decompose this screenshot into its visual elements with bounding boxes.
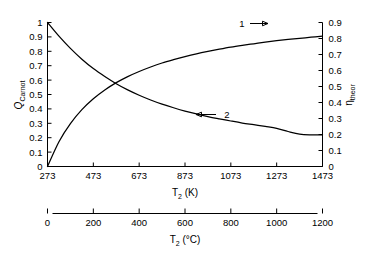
x-celsius-tick-label: 600 xyxy=(177,217,193,228)
y-left-tick-label: 0.1 xyxy=(29,147,42,158)
x-kelvin-tick-label: 273 xyxy=(40,170,56,181)
y-left-tick-label: 0.8 xyxy=(29,46,42,57)
y-right-tick-label: 0.9 xyxy=(329,17,342,28)
chart-background xyxy=(0,0,367,254)
x-celsius-tick-label: 400 xyxy=(131,217,147,228)
x-kelvin-tick-label: 1073 xyxy=(220,170,241,181)
x-kelvin-tick-label: 873 xyxy=(177,170,193,181)
x-celsius-tick-label: 200 xyxy=(85,217,101,228)
x-celsius-axis-title: T2 (°C) xyxy=(170,234,201,247)
x-kelvin-tick-label: 1473 xyxy=(312,170,333,181)
x-kelvin-tick-label: 473 xyxy=(85,170,101,181)
y-left-axis-subscript: Carnot xyxy=(19,81,26,102)
y-right-tick-label: 0.1 xyxy=(329,145,342,156)
x-celsius-tick-label: 1000 xyxy=(266,217,287,228)
y-left-tick-label: 0.6 xyxy=(29,75,42,86)
y-right-axis-subscript: theor xyxy=(349,84,356,101)
y-left-tick-labels: 00.10.20.30.40.50.60.70.80.91 xyxy=(29,17,42,172)
y-right-tick-label: 0.8 xyxy=(329,33,342,44)
y-right-tick-label: 0.7 xyxy=(329,49,342,60)
y-left-tick-label: 0.3 xyxy=(29,118,42,129)
y-right-tick-label: 0.6 xyxy=(329,65,342,76)
series-1-label: 1 xyxy=(239,18,244,29)
y-left-tick-label: 0.2 xyxy=(29,132,42,143)
y-right-tick-label: 0.2 xyxy=(329,129,342,140)
series-2-label: 2 xyxy=(224,109,229,120)
y-left-tick-label: 0.4 xyxy=(29,103,42,114)
y-left-tick-label: 0.9 xyxy=(29,31,42,42)
y-left-tick-label: 0.5 xyxy=(29,89,42,100)
y-left-tick-label: 0.7 xyxy=(29,60,42,71)
carnot-efficiency-chart: 00.10.20.30.40.50.60.70.80.91 00.10.20.3… xyxy=(0,0,367,254)
y-left-tick-label: 1 xyxy=(37,17,42,28)
y-right-tick-label: 0.3 xyxy=(329,113,342,124)
x-celsius-tick-label: 800 xyxy=(223,217,239,228)
x-celsius-tick-label: 1200 xyxy=(312,217,333,228)
chart-figure: 00.10.20.30.40.50.60.70.80.91 00.10.20.3… xyxy=(0,0,367,254)
x-kelvin-tick-label: 1273 xyxy=(266,170,287,181)
x-kelvin-tick-label: 673 xyxy=(131,170,147,181)
y-right-tick-label: 0.5 xyxy=(329,81,342,92)
y-right-tick-label: 0.4 xyxy=(329,97,342,108)
x-kelvin-axis-title: T2 (K) xyxy=(172,187,198,200)
x-celsius-tick-label: 0 xyxy=(45,217,50,228)
